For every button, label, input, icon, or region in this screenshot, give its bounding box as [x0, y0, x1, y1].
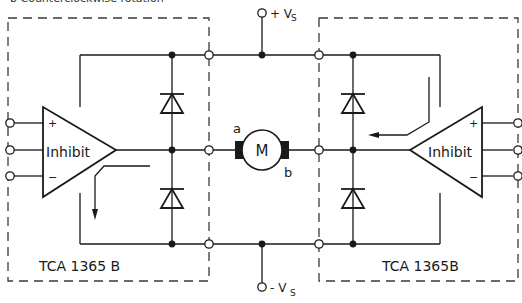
- left-inhibit-amplifier: Inhibit + −: [43, 107, 116, 197]
- left-ic-top-pin: [205, 51, 213, 59]
- right-amp-minus: −: [469, 171, 478, 184]
- motor-terminal-b-label: b: [284, 165, 292, 180]
- right-ic-top-pin: [315, 51, 323, 59]
- left-ic-bottom-pin: [205, 240, 213, 248]
- negative-supply-terminal: [258, 283, 266, 291]
- svg-text:S: S: [290, 288, 296, 298]
- right-amp-plus: +: [469, 117, 478, 130]
- negative-supply-rail: [80, 193, 440, 291]
- h-bridge-circuit-diagram: b Counterclockwise rotation + V S - V S: [0, 0, 522, 303]
- right-inhibit-amplifier: Inhibit + −: [410, 107, 482, 197]
- left-plus-input-pin: [6, 119, 14, 127]
- svg-text:S: S: [291, 13, 297, 23]
- right-ic-bottom-pin: [315, 240, 323, 248]
- motor-icon: M: [235, 130, 289, 170]
- positive-supply-label: + V S: [270, 7, 297, 23]
- svg-text:+ V: + V: [270, 7, 293, 21]
- left-ic-label: TCA 1365 B: [38, 258, 120, 274]
- right-plus-input-pin: [514, 119, 522, 127]
- left-amp-plus: +: [48, 117, 57, 130]
- left-minus-input-pin: [6, 172, 14, 180]
- figure-caption: b Counterclockwise rotation: [10, 0, 164, 5]
- left-inhibit-input-pin: [6, 146, 14, 154]
- right-amp-label: Inhibit: [428, 144, 473, 160]
- right-ic-label: TCA 1365B: [381, 258, 459, 274]
- left-ic-output-pin: [205, 146, 213, 154]
- left-input-pins: [6, 119, 43, 180]
- left-amp-label: Inhibit: [46, 144, 91, 160]
- motor-terminal-a-label: a: [233, 121, 241, 136]
- positive-supply-rail: [80, 9, 440, 107]
- right-current-arrow-icon: [368, 77, 429, 138]
- left-amp-minus: −: [48, 171, 57, 184]
- negative-supply-label: - V S: [270, 281, 296, 298]
- svg-text:- V: - V: [270, 281, 287, 295]
- right-ic-output-pin: [315, 146, 323, 154]
- motor-label: M: [256, 142, 269, 160]
- left-current-arrow-icon: [92, 166, 150, 220]
- right-inhibit-input-pin: [514, 146, 522, 154]
- positive-supply-terminal: [258, 9, 266, 17]
- right-minus-input-pin: [514, 172, 522, 180]
- right-input-pins: [482, 119, 522, 180]
